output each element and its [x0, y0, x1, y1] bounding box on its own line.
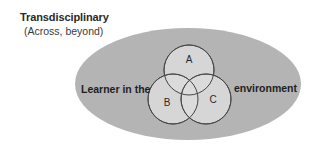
- learner-label: Learner in the: [81, 83, 150, 95]
- diagram-subtitle: (Across, beyond): [24, 25, 103, 37]
- transdisciplinary-diagram: A B C Transdisciplinary (Across, beyond)…: [0, 0, 317, 151]
- environment-label: environment: [234, 82, 297, 94]
- diagram-title: Transdisciplinary: [20, 11, 109, 23]
- circle-c-label: C: [209, 94, 216, 105]
- circle-b-label: B: [164, 97, 171, 108]
- circle-a-label: A: [186, 54, 193, 65]
